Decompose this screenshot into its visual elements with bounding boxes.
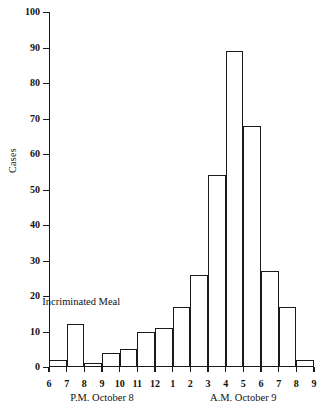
histogram-bar — [120, 349, 138, 367]
plot-area: 0102030405060708090100 67891011121234567… — [49, 12, 314, 367]
x-tick-mark-10 — [119, 367, 120, 372]
histogram-bar — [155, 328, 173, 367]
period-label: A.M. October 9 — [210, 392, 277, 403]
y-tick-label: 70 — [30, 114, 40, 124]
x-tick-label: 3 — [206, 379, 211, 389]
y-tick-label: 10 — [30, 327, 40, 337]
x-tick-mark-6 — [48, 367, 49, 372]
x-tick-mark-9 — [101, 367, 102, 372]
y-tick-mark — [43, 190, 49, 191]
x-tick-label: 5 — [241, 379, 246, 389]
y-tick-label: 20 — [30, 291, 40, 301]
histogram-bar — [173, 307, 191, 367]
x-tick-label: 7 — [64, 379, 69, 389]
histogram-bar — [226, 51, 244, 367]
y-tick-label: 50 — [30, 185, 40, 195]
x-tick-label: 8 — [82, 379, 87, 389]
y-tick-mark — [43, 119, 49, 120]
histogram-bar — [243, 126, 261, 367]
histogram-bar — [102, 353, 120, 367]
period-label: P.M. October 8 — [70, 392, 134, 403]
x-tick-label: 1 — [170, 379, 175, 389]
y-tick-mark — [43, 225, 49, 226]
x-tick-label: 7 — [276, 379, 281, 389]
x-tick-mark-3 — [207, 367, 208, 372]
x-tick-mark-1 — [172, 367, 173, 372]
y-tick-label: 0 — [35, 362, 40, 372]
x-tick-mark-8 — [296, 367, 297, 372]
x-tick-mark-9 — [313, 367, 314, 372]
histogram-bar — [137, 332, 155, 368]
x-tick-mark-5 — [243, 367, 244, 372]
y-axis-line — [49, 12, 50, 367]
y-tick-label: 80 — [30, 78, 40, 88]
y-tick-label: 90 — [30, 43, 40, 53]
histogram-bar — [296, 360, 314, 367]
x-tick-mark-8 — [84, 367, 85, 372]
y-tick-mark — [43, 12, 49, 13]
x-tick-mark-2 — [190, 367, 191, 372]
y-tick-mark — [43, 154, 49, 155]
x-tick-label: 12 — [150, 379, 160, 389]
y-axis-title: Cases — [7, 131, 18, 191]
y-tick-label: 100 — [25, 7, 40, 17]
histogram-bar — [208, 175, 226, 367]
x-tick-label: 8 — [294, 379, 299, 389]
y-tick-label: 40 — [30, 220, 40, 230]
x-tick-mark-12 — [154, 367, 155, 372]
y-tick-label: 60 — [30, 149, 40, 159]
histogram-bar — [67, 324, 85, 367]
y-tick-mark — [43, 83, 49, 84]
x-tick-label: 9 — [100, 379, 105, 389]
x-tick-mark-7 — [278, 367, 279, 372]
histogram-bar — [261, 271, 279, 367]
x-tick-mark-6 — [260, 367, 261, 372]
histogram-bar — [84, 363, 102, 367]
x-tick-label: 10 — [115, 379, 125, 389]
y-tick-label: 30 — [30, 256, 40, 266]
x-tick-label: 2 — [188, 379, 193, 389]
x-tick-label: 4 — [223, 379, 228, 389]
histogram-bar — [279, 307, 297, 367]
x-tick-label: 9 — [312, 379, 317, 389]
y-tick-mark — [43, 332, 49, 333]
y-tick-mark — [43, 261, 49, 262]
x-tick-mark-4 — [225, 367, 226, 372]
x-tick-label: 11 — [133, 379, 142, 389]
y-tick-mark — [43, 48, 49, 49]
epidemic-curve-chart: Cases 0102030405060708090100 67891011121… — [0, 0, 336, 413]
histogram-bar — [49, 360, 67, 367]
x-tick-mark-11 — [137, 367, 138, 372]
x-tick-mark-7 — [66, 367, 67, 372]
histogram-bar — [190, 275, 208, 367]
x-tick-label: 6 — [47, 379, 52, 389]
incriminated-meal-annotation: Incriminated Meal — [42, 296, 120, 307]
x-tick-label: 6 — [259, 379, 264, 389]
